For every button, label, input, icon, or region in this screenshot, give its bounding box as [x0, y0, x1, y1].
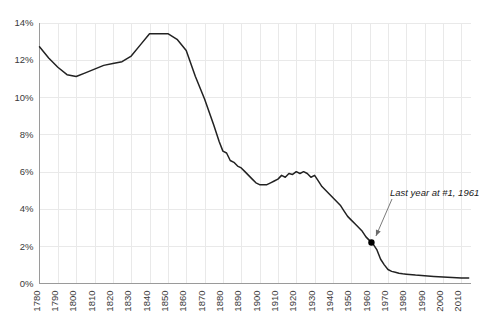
x-axis-tick-label: 1910 [269, 291, 280, 312]
y-axis-tick-label: 0% [20, 278, 34, 289]
x-axis-tick-label: 2000 [434, 291, 445, 312]
x-axis-tick-label: 1920 [287, 291, 298, 312]
y-axis-tick-label: 2% [20, 241, 34, 252]
x-axis-tick-label: 1960 [361, 291, 372, 312]
x-axis-tick-label: 1870 [196, 291, 207, 312]
y-axis-tick-label: 6% [20, 166, 34, 177]
x-axis-tick-label: 1840 [141, 291, 152, 312]
x-axis-tick-label: 1990 [416, 291, 427, 312]
x-axis-tick-label: 2010 [452, 291, 463, 312]
y-axis-tick-label: 10% [14, 92, 34, 103]
x-axis-tick-label: 1950 [342, 291, 353, 312]
annotation-group: Last year at #1, 1961 [368, 187, 479, 246]
chart-container: 14%12%10%8%6%4%2%0% 17801790180018101820… [0, 0, 495, 326]
series-path [40, 34, 469, 278]
x-axis-tick-labels: 1780179018001810182018301840185018601870… [31, 291, 464, 312]
x-axis-tick-label: 1890 [232, 291, 243, 312]
y-axis-tick-label: 14% [14, 17, 34, 28]
x-axis-tick-label: 1850 [159, 291, 170, 312]
x-axis-tick-label: 1830 [122, 291, 133, 312]
annotation-text: Last year at #1, 1961 [390, 187, 479, 198]
gridlines-horizontal [40, 24, 471, 247]
axis-lines [40, 23, 471, 284]
x-axis-tick-label: 1930 [306, 291, 317, 312]
x-axis-tick-label: 1970 [379, 291, 390, 312]
annotation-leader-line [376, 199, 392, 236]
x-axis-tick-label: 1880 [214, 291, 225, 312]
x-axis-tick-label: 1900 [251, 291, 262, 312]
line-chart: 14%12%10%8%6%4%2%0% 17801790180018101820… [0, 0, 495, 326]
x-axis-tick-label: 1820 [104, 291, 115, 312]
x-axis-tick-label: 1810 [86, 291, 97, 312]
y-axis-tick-label: 12% [14, 54, 34, 65]
y-axis-tick-label: 4% [20, 203, 34, 214]
x-axis-tick-label: 1860 [177, 291, 188, 312]
x-axis-tick-label: 1940 [324, 291, 335, 312]
data-series-line [40, 34, 469, 278]
y-axis-tick-labels: 14%12%10%8%6%4%2%0% [14, 17, 34, 289]
data-point-marker [368, 239, 374, 245]
x-axis-tick-label: 1790 [49, 291, 60, 312]
x-axis-tick-label: 1800 [67, 291, 78, 312]
x-axis-tick-label: 1980 [397, 291, 408, 312]
x-axis-tick-label: 1780 [31, 291, 42, 312]
y-axis-tick-label: 8% [20, 129, 34, 140]
